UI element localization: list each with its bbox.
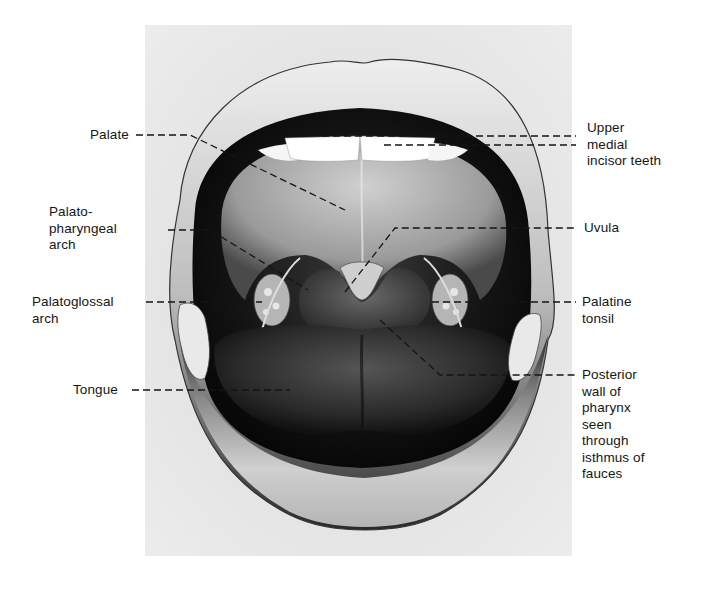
label-palatopharyngeal-arch: Palato- pharyngeal arch xyxy=(49,204,117,254)
right-palatine-tonsil xyxy=(432,274,468,326)
upper-right-medial-incisor xyxy=(360,136,435,161)
label-upper-medial-incisor-teeth: Upper medial incisor teeth xyxy=(587,120,661,170)
label-posterior-wall-of-pharynx: Posterior wall of pharynx seen through i… xyxy=(582,367,645,483)
label-palatine-tonsil: Palatine tonsil xyxy=(582,294,632,327)
label-palatoglossal-arch: Palatoglossal arch xyxy=(32,294,114,327)
mouth-anatomy-figure: Palate Palato- pharyngeal arch Palatoglo… xyxy=(0,0,728,592)
label-uvula: Uvula xyxy=(584,220,619,237)
label-tongue: Tongue xyxy=(73,382,118,399)
upper-left-medial-incisor xyxy=(285,136,360,161)
label-palate: Palate xyxy=(90,127,129,144)
